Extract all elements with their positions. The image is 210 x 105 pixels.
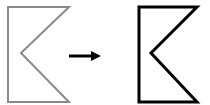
diagram-canvas: [0, 0, 210, 105]
diagram-svg: [0, 0, 210, 105]
target-chevron-shape: [139, 7, 197, 102]
arrow-head-icon: [91, 51, 101, 61]
source-chevron-shape: [8, 7, 69, 102]
